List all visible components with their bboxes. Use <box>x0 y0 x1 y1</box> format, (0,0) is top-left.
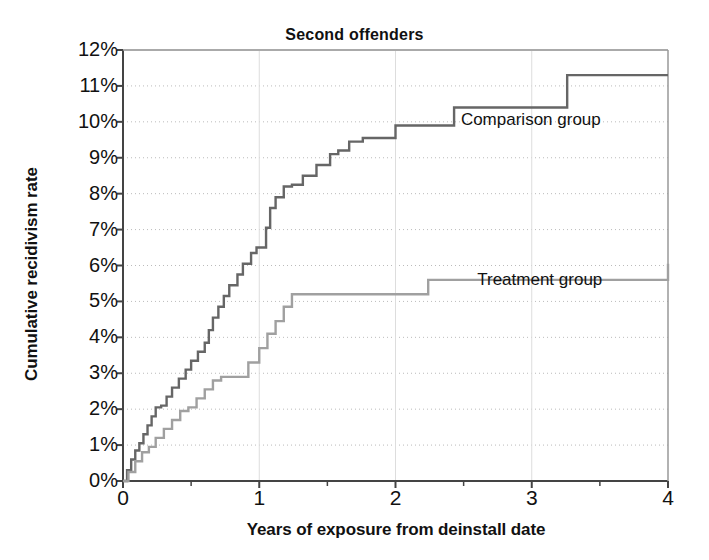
y-tick-label: 3% <box>56 362 118 382</box>
y-tick-label: 10% <box>56 111 118 131</box>
chart-figure: Second offenders Cumulative recidivism r… <box>0 0 709 560</box>
y-tick-label: 7% <box>56 219 118 239</box>
y-tick-label: 4% <box>56 326 118 346</box>
y-tick-label: 9% <box>56 147 118 167</box>
x-tick-label: 1 <box>239 487 279 508</box>
y-tick-label: 8% <box>56 183 118 203</box>
series-label-1: Comparison group <box>461 110 601 130</box>
series-label-2: Treatment group <box>477 270 602 290</box>
y-tick-label: 5% <box>56 290 118 310</box>
y-tick-label: 1% <box>56 434 118 454</box>
x-tick-label: 3 <box>512 487 552 508</box>
y-tick-label: 12% <box>56 39 118 59</box>
y-tick-label: 6% <box>56 255 118 275</box>
x-tick-label: 2 <box>376 487 416 508</box>
y-tick-label-layer: 0%1%2%3%4%5%6%7%8%9%10%11%12% <box>52 0 118 560</box>
y-tick-label: 11% <box>56 75 118 95</box>
y-tick-label: 2% <box>56 398 118 418</box>
x-tick-label: 4 <box>648 487 688 508</box>
x-tick-label: 0 <box>103 487 143 508</box>
